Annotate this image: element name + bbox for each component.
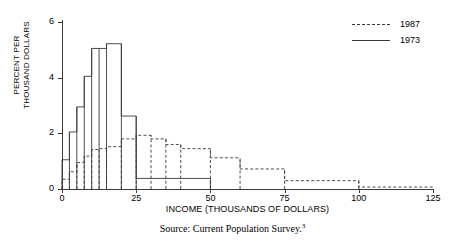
legend-item-1973: 1973 xyxy=(352,32,420,48)
legend-swatch-dashed xyxy=(352,24,390,25)
legend-swatch-solid xyxy=(352,40,390,41)
legend-label: 1973 xyxy=(400,35,420,45)
histogram-series-1987 xyxy=(62,135,433,189)
legend-item-1987: 1987 xyxy=(352,16,420,32)
source-note: Source: Current Population Survey.3 xyxy=(0,222,465,234)
chart-figure: PERCENT PER THOUSAND DOLLARS 0246 025507… xyxy=(0,0,465,246)
source-text: Source: Current Population Survey. xyxy=(160,223,302,234)
legend-label: 1987 xyxy=(400,19,420,29)
chart-legend: 19871973 xyxy=(352,16,420,48)
source-superscript: 3 xyxy=(302,222,306,230)
x-axis-title: INCOME (THOUSANDS OF DOLLARS) xyxy=(62,204,433,214)
